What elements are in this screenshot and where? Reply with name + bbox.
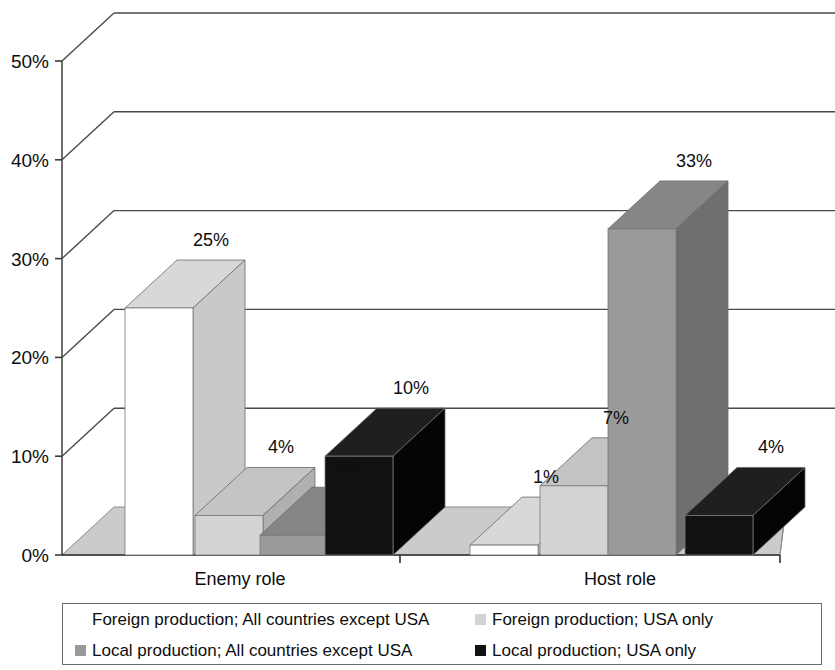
data-label-host-role-series-1: 7%	[603, 408, 629, 428]
data-label-enemy-role-series-0: 25%	[193, 230, 229, 250]
data-label-host-role-series-2: 33%	[676, 151, 712, 171]
data-label-enemy-role-series-3: 10%	[393, 378, 429, 398]
legend-item-local-all-countries: Local production; All countries except U…	[75, 635, 475, 666]
legend-swatch-foreign-all-countries	[75, 614, 86, 625]
gridline-50	[62, 13, 835, 61]
y-tick-label-40: 40%	[11, 150, 49, 171]
legend-label-foreign-usa-only: Foreign production; USA only	[492, 611, 713, 628]
category-label-enemy-role: Enemy role	[194, 569, 285, 589]
y-tick-label-0: 0%	[22, 545, 50, 566]
y-tick-label-30: 30%	[11, 249, 49, 270]
legend-item-local-usa-only: Local production; USA only	[475, 635, 821, 666]
y-tick-label-10: 10%	[11, 446, 49, 467]
y-tick-label-20: 20%	[11, 347, 49, 368]
legend-label-foreign-all-countries: Foreign production; All countries except…	[92, 611, 429, 628]
category-label-host-role: Host role	[584, 569, 656, 589]
data-label-enemy-role-series-1: 4%	[268, 437, 294, 457]
legend-swatch-foreign-usa-only	[475, 614, 486, 625]
legend-swatch-local-usa-only	[475, 645, 486, 656]
legend-label-local-all-countries: Local production; All countries except U…	[92, 642, 412, 659]
legend-swatch-local-all-countries	[75, 645, 86, 656]
legend-item-foreign-all-countries: Foreign production; All countries except…	[75, 604, 475, 635]
data-label-host-role-series-0: 1%	[533, 467, 559, 487]
chart-container: 0%10%20%30%40%50%25%4%2%10%1%7%33%4%Enem…	[0, 0, 835, 670]
gridline-40	[62, 112, 835, 160]
bar-chart: 0%10%20%30%40%50%25%4%2%10%1%7%33%4%Enem…	[0, 0, 835, 670]
legend-label-local-usa-only: Local production; USA only	[492, 642, 696, 659]
data-label-host-role-series-3: 4%	[758, 437, 784, 457]
y-tick-label-50: 50%	[11, 51, 49, 72]
chart-legend: Foreign production; All countries except…	[62, 603, 822, 665]
data-label-enemy-role-series-2: 2%	[333, 457, 359, 477]
legend-item-foreign-usa-only: Foreign production; USA only	[475, 604, 821, 635]
